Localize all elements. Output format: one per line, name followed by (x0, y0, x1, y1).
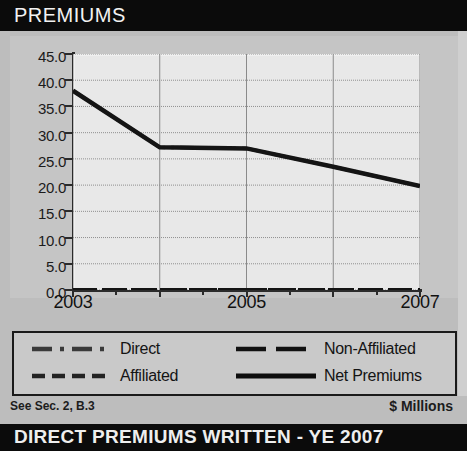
legend-row-1: Direct Non-Affiliated (14, 336, 455, 362)
y-axis-labels: 0.05.010.015.020.025.030.035.040.045.0 (14, 54, 66, 290)
units-label: $ Millions (389, 398, 453, 414)
y-tick-label: 15.0 (20, 205, 66, 222)
x-tick-label: 2005 (227, 292, 266, 313)
y-tick-label: 10.0 (20, 231, 66, 248)
legend-swatch-long-dash (236, 342, 316, 356)
footer: See Sec. 2, B.3 $ Millions (0, 396, 467, 422)
y-tick-mark (65, 132, 73, 134)
bottom-bar-title: DIRECT PREMIUMS WRITTEN - YE 2007 (14, 426, 384, 448)
legend-swatch-solid (236, 369, 316, 383)
chart-legend: Direct Non-Affiliated Affiliated Net Pre… (12, 331, 457, 396)
y-tick-mark (65, 210, 73, 212)
y-tick-mark (65, 184, 73, 186)
panel-right-edge (458, 31, 467, 396)
y-tick-mark (65, 158, 73, 160)
bottom-bar: DIRECT PREMIUMS WRITTEN - YE 2007 (0, 424, 467, 451)
legend-swatch-short-dash (32, 369, 112, 383)
y-tick-mark (65, 79, 73, 81)
y-tick-mark (65, 53, 73, 55)
y-tick-label: 35.0 (20, 100, 66, 117)
legend-row-2: Affiliated Net Premiums (14, 363, 455, 389)
legend-label: Direct (120, 340, 160, 358)
x-tick-label: 2003 (53, 292, 92, 313)
legend-item-affiliated[interactable]: Affiliated (32, 363, 178, 389)
source-note: See Sec. 2, B.3 (10, 399, 95, 413)
plot-area (73, 54, 420, 290)
chart-panel: 0.05.010.015.020.025.030.035.040.045.0 2… (10, 36, 458, 298)
x-tick-label: 2007 (400, 292, 439, 313)
y-tick-mark (65, 263, 73, 265)
title-bar: PREMIUMS (0, 0, 467, 31)
series-svg (73, 54, 420, 290)
page-title: PREMIUMS (14, 4, 126, 27)
legend-label: Net Premiums (324, 367, 422, 385)
y-tick-label: 25.0 (20, 152, 66, 169)
y-tick-label: 30.0 (20, 126, 66, 143)
y-tick-mark (65, 105, 73, 107)
legend-item-non-affiliated[interactable]: Non-Affiliated (236, 336, 416, 362)
legend-swatch-dash-dot (32, 342, 112, 356)
x-axis-labels: 200320052007 (73, 292, 420, 316)
legend-item-net-premiums[interactable]: Net Premiums (236, 363, 422, 389)
y-tick-label: 20.0 (20, 179, 66, 196)
y-tick-label: 40.0 (20, 74, 66, 91)
y-tick-label: 45.0 (20, 48, 66, 65)
legend-label: Non-Affiliated (324, 340, 416, 358)
y-tick-label: 5.0 (20, 257, 66, 274)
y-tick-mark (65, 237, 73, 239)
plot-inner (73, 54, 420, 290)
premiums-chart-card: PREMIUMS 0.05.010.015.020.025.030.035.04… (0, 0, 467, 451)
legend-item-direct[interactable]: Direct (32, 336, 160, 362)
legend-label: Affiliated (120, 367, 178, 385)
